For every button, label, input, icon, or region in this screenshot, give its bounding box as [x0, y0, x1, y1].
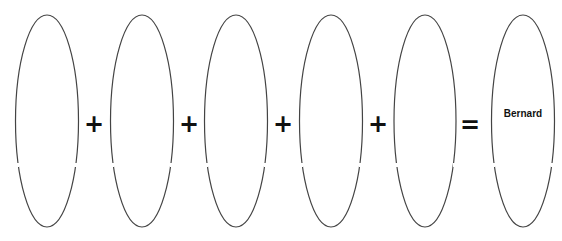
oval-5	[394, 15, 456, 227]
line-gaps	[14, 163, 556, 167]
plus-operator-1: +	[84, 112, 104, 136]
oval-1	[16, 15, 79, 227]
plus-operator-4: +	[368, 112, 388, 136]
oval-3	[205, 15, 268, 227]
plus-operator-2: +	[179, 112, 199, 136]
oval-6-label: Bernard	[493, 108, 553, 119]
oval-2	[111, 15, 174, 227]
oval-6	[492, 15, 555, 227]
oval-4	[300, 15, 363, 227]
equals-operator: =	[460, 113, 480, 137]
plus-operator-3: +	[273, 112, 293, 136]
